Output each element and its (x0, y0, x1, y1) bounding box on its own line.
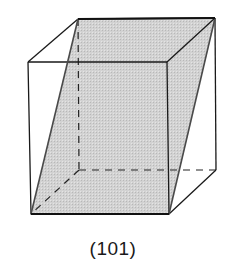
miller-plane-101 (31, 18, 215, 214)
plane-edge-top (78, 18, 215, 19)
cube-diagram (0, 0, 226, 262)
edge-back-right (215, 18, 216, 170)
miller-index-label: (101) (0, 238, 226, 260)
